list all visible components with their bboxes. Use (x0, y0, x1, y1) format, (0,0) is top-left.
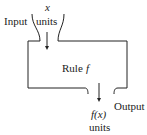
output-value: f(x) (91, 108, 107, 121)
output-label: Output (114, 100, 145, 112)
input-arrowhead-icon (45, 46, 49, 50)
output-arrowhead-icon (97, 98, 101, 102)
machine-rule-label: Rule (62, 62, 83, 74)
output-units: units (89, 121, 110, 133)
input-funnel-right (58, 14, 64, 41)
input-variable: x (44, 1, 50, 13)
input-units: units (36, 15, 57, 27)
machine-function-name: f (86, 62, 91, 74)
input-label: Input (4, 15, 27, 27)
function-machine-diagram: Input x units Rule f Output f(x) units (0, 0, 147, 135)
